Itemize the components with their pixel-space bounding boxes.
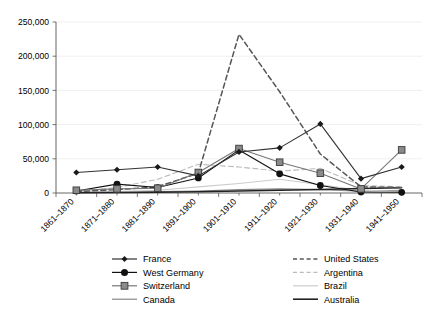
data-point [155, 164, 161, 170]
data-point [317, 182, 324, 189]
x-axis-tick-label: 1891–1900 [160, 196, 198, 234]
legend-item-argentina[interactable]: Argentina [293, 268, 364, 278]
data-point [358, 186, 365, 193]
legend-item-australia[interactable]: Australia [293, 295, 360, 305]
legend-marker [121, 282, 128, 289]
line-chart: 050,000100,000150,000200,000250,0001861–… [0, 0, 430, 317]
y-axis-tick-label: 100,000 [18, 120, 49, 130]
x-axis-tick-label: 1901–1910 [201, 196, 239, 234]
legend-marker [122, 256, 128, 262]
data-point [73, 187, 80, 194]
data-point [276, 170, 283, 177]
y-axis-tick-label: 0 [44, 188, 49, 198]
legend-item-west-germany[interactable]: West Germany [112, 268, 204, 278]
x-axis-tick-label: 1931–1940 [323, 196, 361, 234]
x-axis-tick-label: 1911–1920 [242, 196, 279, 233]
x-axis-tick-label: 1861–1870 [38, 196, 76, 234]
data-point [276, 159, 283, 166]
data-point [154, 185, 161, 192]
legend-marker [121, 269, 128, 276]
data-point [398, 147, 405, 154]
data-point [114, 167, 120, 173]
series-france [73, 121, 405, 182]
x-axis-tick-label: 1921–1930 [282, 196, 320, 234]
legend-label: West Germany [143, 268, 204, 278]
legend-item-canada[interactable]: Canada [112, 295, 176, 305]
legend-label: France [143, 254, 171, 264]
y-axis-tick-label: 200,000 [18, 51, 49, 61]
y-axis-tick-label: 150,000 [18, 86, 49, 96]
legend-label: Canada [143, 295, 176, 305]
y-axis-tick-label: 50,000 [23, 154, 50, 164]
data-point [277, 145, 283, 151]
legend-item-united-states[interactable]: United States [293, 254, 379, 264]
chart-canvas: 050,000100,000150,000200,000250,0001861–… [0, 0, 430, 317]
data-point [317, 170, 324, 177]
legend-label: Australia [324, 295, 360, 305]
legend-label: United States [324, 254, 379, 264]
data-point [399, 164, 405, 170]
data-point [398, 189, 405, 196]
legend-item-france[interactable]: France [112, 254, 171, 264]
legend-label: Switzerland [143, 281, 190, 291]
legend-label: Brazil [324, 281, 347, 291]
data-point [114, 186, 121, 193]
legend-item-brazil[interactable]: Brazil [293, 281, 347, 291]
x-axis-tick-label: 1871–1880 [79, 196, 117, 234]
y-axis-tick-label: 250,000 [18, 17, 49, 27]
legend-item-switzerland[interactable]: Switzerland [112, 281, 190, 291]
legend-label: Argentina [324, 268, 364, 278]
x-axis-tick-label: 1881–1890 [120, 196, 158, 234]
data-point [73, 169, 79, 175]
x-axis-tick-label: 1941–1950 [364, 196, 402, 234]
